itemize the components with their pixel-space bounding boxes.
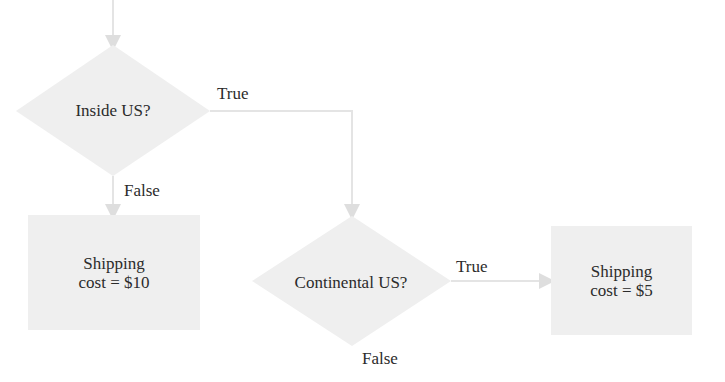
result-shipping-10: Shipping cost = $10: [28, 215, 200, 330]
continental-true-label: True: [456, 257, 488, 277]
result-shipping-5-line1: Shipping: [590, 262, 652, 281]
result-shipping-10-line2: cost = $10: [79, 273, 150, 292]
result-shipping-5-line2: cost = $5: [590, 281, 652, 300]
result-shipping-5: Shipping cost = $5: [551, 226, 692, 335]
decision-inside-us-label: Inside US?: [75, 101, 150, 121]
continental-false-label: False: [362, 349, 398, 369]
decision-continental-us-label: Continental US?: [295, 273, 408, 293]
inside-true-label: True: [217, 84, 249, 104]
result-shipping-10-line1: Shipping: [79, 254, 150, 273]
inside-false-label: False: [124, 181, 160, 201]
inside-true-connector: [210, 111, 352, 212]
